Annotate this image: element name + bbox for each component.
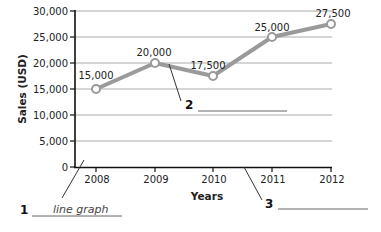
x-tick-label: 2012 xyxy=(319,174,344,185)
data-labels: 15,000 20,000 17,500 25,000 27,500 xyxy=(79,8,351,81)
data-label: 15,000 xyxy=(79,70,114,81)
data-point xyxy=(209,72,217,80)
callout-1: 1 line graph xyxy=(20,160,122,217)
data-point xyxy=(151,59,159,67)
callout-number: 1 xyxy=(20,203,28,217)
x-tick-label: 2011 xyxy=(260,174,285,185)
x-tick-label: 2009 xyxy=(143,174,168,185)
y-tick-label: 5,000 xyxy=(39,136,68,147)
data-point xyxy=(327,20,335,28)
answer-text[interactable]: line graph xyxy=(53,203,109,216)
x-axis-title: Years xyxy=(190,190,223,202)
callout-number: 2 xyxy=(185,98,193,112)
x-tick-label: 2010 xyxy=(201,174,226,185)
y-tick-labels: 30,000 25,000 20,000 15,000 10,000 5,000… xyxy=(33,6,68,173)
data-label: 27,500 xyxy=(316,8,351,19)
y-tick-label: 10,000 xyxy=(33,110,68,121)
data-label: 17,500 xyxy=(191,60,226,71)
x-tick-labels: 2008 2009 2010 2011 2012 xyxy=(84,174,344,185)
data-point xyxy=(268,33,276,41)
data-point xyxy=(92,85,100,93)
line-chart: 30,000 25,000 20,000 15,000 10,000 5,000… xyxy=(0,0,381,232)
y-tick-label: 30,000 xyxy=(33,6,68,17)
y-axis-title: Sales (USD) xyxy=(16,54,28,124)
y-tick-label: 20,000 xyxy=(33,58,68,69)
y-tick-label: 0 xyxy=(62,162,68,173)
callout-number: 3 xyxy=(265,197,273,211)
data-label: 20,000 xyxy=(137,47,172,58)
x-tick-label: 2008 xyxy=(84,174,109,185)
y-tick-label: 15,000 xyxy=(33,84,68,95)
data-label: 25,000 xyxy=(255,22,290,33)
y-tick-label: 25,000 xyxy=(33,32,68,43)
